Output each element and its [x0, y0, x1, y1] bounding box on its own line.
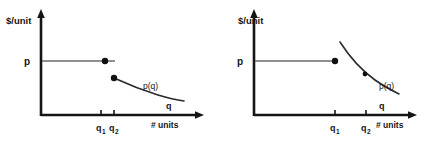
- curve-label-pq: p(q): [143, 81, 158, 91]
- x-axis-arrow-icon: [195, 111, 204, 119]
- right-chart-svg: $/unit p p(q) q 1 q 2 q # units: [213, 0, 426, 149]
- x-axis-arrow-icon: [408, 111, 417, 119]
- x-axis-symbol-label: q: [379, 101, 385, 111]
- price-level-label: p: [237, 56, 243, 67]
- tick-label-q2-base: q: [109, 123, 115, 133]
- x-axis-symbol-label: q: [166, 101, 172, 111]
- tick-label-q1-sub: 1: [336, 128, 340, 135]
- curve-start-dot: [111, 75, 117, 81]
- price-level-label: p: [24, 56, 30, 67]
- two-panel-demand-figure: $/unit p p(q) q 1 q 2 q # units: [0, 0, 426, 149]
- price-line-endpoint-dot: [102, 58, 108, 64]
- y-axis-label: $/unit: [6, 15, 32, 26]
- y-axis-arrow-icon: [37, 9, 45, 18]
- chart-panel-left: $/unit p p(q) q 1 q 2 q # units: [0, 0, 213, 149]
- curve-midpoint-dot: [363, 72, 368, 77]
- tick-label-q1-sub: 1: [102, 128, 106, 135]
- tick-label-q1-base: q: [96, 123, 102, 133]
- x-axis-units-label: # units: [151, 120, 179, 130]
- tick-label-q1-base: q: [330, 123, 336, 133]
- chart-panel-right: $/unit p p(q) q 1 q 2 q # units: [213, 0, 426, 149]
- curve-label-pq: p(q): [379, 81, 394, 91]
- tick-label-q2-sub: 2: [115, 128, 119, 135]
- y-axis-label: $/unit: [238, 15, 264, 26]
- x-axis-units-label: # units: [376, 120, 404, 130]
- tick-label-q2-sub: 2: [367, 128, 371, 135]
- price-line-endpoint-dot: [332, 58, 338, 64]
- tick-label-q2-base: q: [361, 123, 367, 133]
- left-chart-svg: $/unit p p(q) q 1 q 2 q # units: [0, 0, 213, 149]
